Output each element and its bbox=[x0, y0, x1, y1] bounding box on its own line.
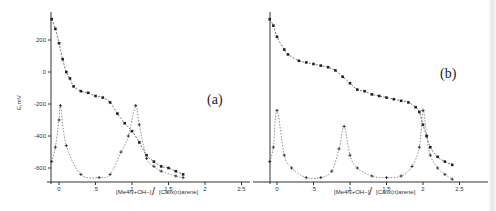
data-point-dot bbox=[54, 28, 57, 31]
data-point-dot bbox=[436, 156, 439, 159]
panel-a-y-ticks: 2000-200-400-600 bbox=[34, 37, 51, 171]
data-point-dot bbox=[268, 18, 271, 21]
fraction-slash: / bbox=[152, 185, 156, 197]
data-point-dot bbox=[393, 98, 396, 101]
data-point-dot bbox=[61, 58, 64, 61]
data-point-dot bbox=[400, 100, 403, 103]
data-point-dot bbox=[167, 167, 170, 170]
panel-b-chart: 0.511.522.5 [Me4N+OH−] / [Calix(n)arene]… bbox=[253, 12, 490, 197]
data-point-dot bbox=[87, 92, 90, 95]
data-point-plus bbox=[98, 176, 101, 179]
panel-a-label: (a) bbox=[207, 92, 223, 108]
data-point-dot bbox=[65, 71, 68, 74]
data-point-dot bbox=[385, 96, 388, 99]
data-point-dot bbox=[175, 170, 178, 173]
potential-curve bbox=[270, 19, 453, 165]
data-point-plus bbox=[410, 165, 413, 168]
x-tick-label: 0 bbox=[57, 186, 61, 192]
data-point-plus bbox=[337, 147, 340, 150]
data-point-dot bbox=[418, 111, 421, 114]
panel-b-label: (b) bbox=[440, 66, 457, 82]
panel-a-x-label-denominator: [Calix(n)arene] bbox=[159, 189, 199, 195]
y-tick-label: -600 bbox=[34, 165, 47, 171]
data-point-dot bbox=[109, 101, 112, 104]
data-point-dot bbox=[80, 90, 83, 93]
data-point-dot bbox=[407, 101, 410, 104]
panel-b-curves bbox=[268, 18, 454, 181]
data-point-dot bbox=[50, 18, 53, 21]
data-point-plus bbox=[160, 170, 163, 173]
data-point-dot bbox=[422, 124, 425, 127]
y-tick-label: 200 bbox=[36, 37, 47, 43]
x-tick-label: 2 bbox=[203, 186, 207, 192]
data-point-plus bbox=[182, 176, 185, 179]
data-point-plus bbox=[429, 154, 432, 157]
x-tick-label: 0 bbox=[275, 186, 279, 192]
data-point-plus bbox=[385, 176, 388, 179]
data-point-dot bbox=[334, 69, 337, 72]
data-point-dot bbox=[451, 164, 454, 167]
data-point-plus bbox=[138, 123, 141, 126]
x-tick-label: 2.5 bbox=[237, 186, 246, 192]
data-point-plus bbox=[421, 109, 424, 112]
data-point-plus bbox=[283, 154, 286, 157]
data-point-plus bbox=[356, 166, 359, 169]
data-point-dot bbox=[116, 112, 119, 115]
data-point-dot bbox=[138, 141, 141, 144]
data-point-dot bbox=[298, 60, 301, 63]
data-point-dot bbox=[305, 61, 308, 64]
data-point-plus bbox=[134, 104, 137, 107]
data-point-plus bbox=[348, 154, 351, 157]
page-edge-shadow bbox=[488, 0, 496, 211]
y-tick-label: 0 bbox=[43, 69, 47, 75]
data-point-plus bbox=[145, 157, 148, 160]
data-point-plus bbox=[127, 134, 130, 137]
y-tick-label: -200 bbox=[34, 101, 47, 107]
data-point-plus bbox=[65, 144, 68, 147]
derivative-curve bbox=[270, 110, 453, 179]
data-point-plus bbox=[319, 176, 322, 179]
data-point-dot bbox=[349, 82, 352, 85]
data-point-dot bbox=[272, 24, 275, 27]
data-point-dot bbox=[341, 76, 344, 79]
panel-b-x-label: [Me4N+OH−] / [Calix(n)arene] bbox=[334, 185, 416, 197]
data-point-dot bbox=[363, 90, 366, 93]
x-tick-label: 2 bbox=[421, 186, 425, 192]
data-point-dot bbox=[356, 88, 359, 91]
data-point-dot bbox=[444, 160, 447, 163]
data-point-dot bbox=[153, 160, 156, 163]
data-point-plus bbox=[272, 146, 275, 149]
data-point-dot bbox=[283, 48, 286, 51]
panel-a-chart: 2000-200-400-600 0.511.522.5 E,mV [Me4N+… bbox=[16, 12, 250, 197]
data-point-plus bbox=[119, 150, 122, 153]
titration-charts: 2000-200-400-600 0.511.522.5 E,mV [Me4N+… bbox=[0, 0, 496, 211]
data-point-dot bbox=[414, 106, 417, 109]
data-point-dot bbox=[123, 122, 126, 125]
data-point-plus bbox=[400, 174, 403, 177]
x-tick-label: 2.5 bbox=[455, 186, 464, 192]
data-point-plus bbox=[59, 104, 62, 107]
x-tick-label: .5 bbox=[93, 186, 99, 192]
data-point-dot bbox=[160, 165, 163, 168]
panel-a-x-label: [Me4N+OH−] / [Calix(n)arene] bbox=[116, 185, 199, 197]
data-point-dot bbox=[182, 173, 185, 176]
panel-a-y-label: E,mV bbox=[16, 95, 22, 110]
panel-a-curves bbox=[50, 18, 185, 179]
data-point-dot bbox=[378, 95, 381, 98]
data-point-plus bbox=[57, 118, 60, 121]
fraction-slash: / bbox=[369, 185, 373, 197]
data-point-plus bbox=[275, 109, 278, 112]
data-point-plus bbox=[418, 146, 421, 149]
data-point-dot bbox=[429, 146, 432, 149]
panel-b-x-label-numerator: [Me4N+OH−] bbox=[334, 189, 370, 195]
data-point-dot bbox=[276, 36, 279, 39]
data-point-dot bbox=[58, 42, 61, 45]
data-point-dot bbox=[371, 93, 374, 96]
data-point-dot bbox=[131, 130, 134, 133]
potential-curve bbox=[52, 19, 183, 174]
data-point-dot bbox=[69, 77, 72, 80]
x-tick-label: .5 bbox=[311, 186, 317, 192]
data-point-plus bbox=[370, 174, 373, 177]
data-point-plus bbox=[109, 173, 112, 176]
data-point-dot bbox=[94, 95, 97, 98]
